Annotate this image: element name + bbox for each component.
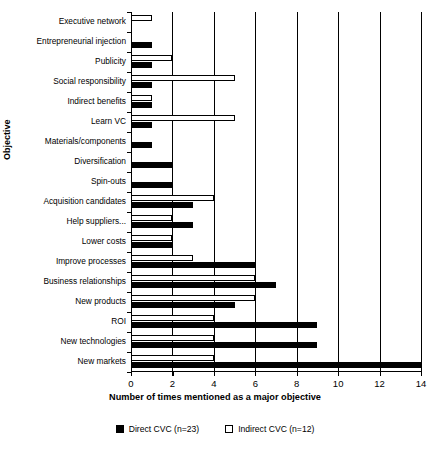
bar-row bbox=[131, 152, 421, 172]
bar-direct bbox=[131, 142, 152, 148]
bar-direct bbox=[131, 182, 172, 188]
bar-indirect bbox=[131, 335, 214, 341]
bar-indirect bbox=[131, 15, 152, 21]
bar-row bbox=[131, 272, 421, 292]
y-tick-label: Improve processes bbox=[56, 257, 126, 266]
x-tick bbox=[131, 372, 132, 376]
y-tick-label: Diversification bbox=[74, 157, 126, 166]
x-tick bbox=[172, 372, 173, 376]
bar-indirect bbox=[131, 275, 255, 281]
gridline bbox=[421, 12, 422, 372]
y-tick-label: Help suppliers... bbox=[67, 217, 127, 226]
y-tick-label: ROI bbox=[111, 317, 126, 326]
x-tick bbox=[421, 372, 422, 376]
bar-direct bbox=[131, 242, 172, 248]
bar-indirect bbox=[131, 195, 214, 201]
bar-indirect bbox=[131, 115, 235, 121]
y-tick-label: Publicity bbox=[95, 57, 126, 66]
y-tick-label: Acquisition candidates bbox=[43, 197, 126, 206]
bar-direct bbox=[131, 282, 276, 288]
bar-direct bbox=[131, 82, 152, 88]
x-tick-label: 10 bbox=[326, 378, 350, 389]
bar-row bbox=[131, 32, 421, 52]
bar-direct bbox=[131, 362, 421, 368]
bar-row bbox=[131, 72, 421, 92]
bar-direct bbox=[131, 162, 172, 168]
bar-row bbox=[131, 332, 421, 352]
y-tick-label: Business relationships bbox=[43, 277, 126, 286]
y-tick-label: Executive network bbox=[59, 17, 126, 26]
chart-legend: Direct CVC (n=23)Indirect CVC (n=12) bbox=[0, 424, 430, 434]
y-axis-title: Objective bbox=[2, 119, 12, 160]
bar-row bbox=[131, 232, 421, 252]
bar-indirect bbox=[131, 315, 214, 321]
bar-direct bbox=[131, 342, 317, 348]
bar-row bbox=[131, 92, 421, 112]
legend-swatch-direct bbox=[116, 425, 124, 433]
bar-row bbox=[131, 292, 421, 312]
bar-direct bbox=[131, 62, 152, 68]
legend-label: Indirect CVC (n=12) bbox=[238, 424, 314, 434]
x-tick-label: 4 bbox=[202, 378, 226, 389]
x-tick-label: 8 bbox=[285, 378, 309, 389]
y-tick-label: Indirect benefits bbox=[67, 97, 126, 106]
bar-row bbox=[131, 252, 421, 272]
bar-indirect bbox=[131, 55, 172, 61]
y-tick-label: Spin-outs bbox=[91, 177, 126, 186]
bar-indirect bbox=[131, 75, 235, 81]
y-tick-label: Materials/components bbox=[45, 137, 126, 146]
legend-swatch-indirect bbox=[225, 425, 233, 433]
y-tick-label: Learn VC bbox=[91, 117, 126, 126]
bar-direct bbox=[131, 302, 235, 308]
bar-indirect bbox=[131, 95, 152, 101]
bar-row bbox=[131, 172, 421, 192]
bar-row bbox=[131, 12, 421, 32]
y-tick-label: Entrepreneurial injection bbox=[37, 37, 126, 46]
bar-direct bbox=[131, 222, 193, 228]
bar-row bbox=[131, 312, 421, 332]
x-tick-label: 12 bbox=[368, 378, 392, 389]
legend-item: Direct CVC (n=23) bbox=[116, 424, 199, 434]
bar-indirect bbox=[131, 215, 172, 221]
bar-direct bbox=[131, 102, 152, 108]
x-tick bbox=[214, 372, 215, 376]
bar-indirect bbox=[131, 355, 214, 361]
y-tick-label: New products bbox=[75, 297, 126, 306]
bar-row bbox=[131, 112, 421, 132]
legend-label: Direct CVC (n=23) bbox=[129, 424, 199, 434]
bar-row bbox=[131, 212, 421, 232]
x-tick bbox=[255, 372, 256, 376]
bar-direct bbox=[131, 122, 152, 128]
x-axis-title: Number of times mentioned as a major obj… bbox=[0, 392, 430, 402]
x-tick-label: 14 bbox=[409, 378, 430, 389]
bar-direct bbox=[131, 42, 152, 48]
bar-indirect bbox=[131, 255, 193, 261]
bar-direct bbox=[131, 262, 255, 268]
x-tick-label: 6 bbox=[243, 378, 267, 389]
y-tick-label: Lower costs bbox=[82, 237, 126, 246]
bar-rows bbox=[131, 12, 421, 372]
bar-row bbox=[131, 352, 421, 372]
bar-row bbox=[131, 52, 421, 72]
plot-area: 02468101214 bbox=[131, 12, 421, 372]
x-tick bbox=[338, 372, 339, 376]
bar-indirect bbox=[131, 295, 255, 301]
bar-chart: Objective Executive networkEntrepreneuri… bbox=[0, 0, 430, 449]
bar-row bbox=[131, 132, 421, 152]
y-tick-label: New technologies bbox=[61, 337, 127, 346]
bar-direct bbox=[131, 202, 193, 208]
x-tick-label: 2 bbox=[160, 378, 184, 389]
y-tick-label: Social responsibility bbox=[53, 77, 126, 86]
x-tick-label: 0 bbox=[119, 378, 143, 389]
legend-item: Indirect CVC (n=12) bbox=[225, 424, 314, 434]
x-tick bbox=[380, 372, 381, 376]
bar-indirect bbox=[131, 235, 172, 241]
bar-row bbox=[131, 192, 421, 212]
x-tick bbox=[297, 372, 298, 376]
bar-direct bbox=[131, 322, 317, 328]
y-tick-label: New markets bbox=[78, 357, 126, 366]
